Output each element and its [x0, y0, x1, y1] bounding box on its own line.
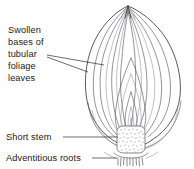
swollen-bases-line-3: tubular [8, 49, 37, 59]
adventitious-roots-text: Adventitious roots [6, 153, 81, 163]
concentric-leaf-scales [93, 7, 170, 140]
onion-bulb-diagram: Swollen bases of tubular foliage leaves … [0, 0, 194, 169]
short-stem-basal-plate [117, 126, 145, 153]
short-stem-text: Short stem [6, 132, 52, 142]
adventitious-roots-label: Adventitious roots [6, 153, 117, 163]
adventitious-root-hairs [104, 152, 158, 166]
swollen-bases-line-1: Swollen [8, 25, 41, 35]
swollen-bases-line-2: bases of [8, 37, 44, 47]
swollen-bases-leader-lower [47, 57, 88, 72]
swollen-bases-line-4: foliage [8, 61, 36, 71]
swollen-bases-line-5: leaves [8, 73, 35, 83]
